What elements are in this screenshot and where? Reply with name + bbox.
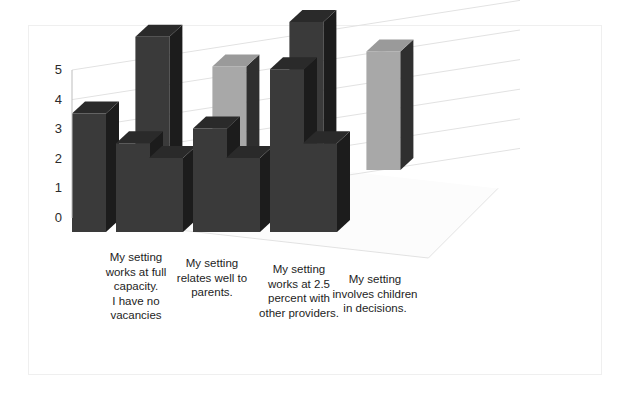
category-label-line: vacancies bbox=[84, 308, 188, 323]
y-axis-tick-5: 5 bbox=[40, 63, 62, 76]
y-axis-tick-4: 4 bbox=[40, 93, 62, 106]
category-label-line: involves children bbox=[323, 287, 427, 302]
y-axis-tick-1: 1 bbox=[40, 181, 62, 194]
category-label-line: in decisions. bbox=[323, 301, 427, 316]
chart-frame bbox=[28, 25, 602, 375]
y-axis-tick-2: 2 bbox=[40, 152, 62, 165]
category-label-line: My setting bbox=[323, 272, 427, 287]
y-axis-tick-3: 3 bbox=[40, 122, 62, 135]
bar-back-2-top bbox=[289, 10, 336, 22]
category-label-3: My settinginvolves childrenin decisions. bbox=[323, 272, 427, 316]
y-axis-tick-0: 0 bbox=[40, 211, 62, 224]
